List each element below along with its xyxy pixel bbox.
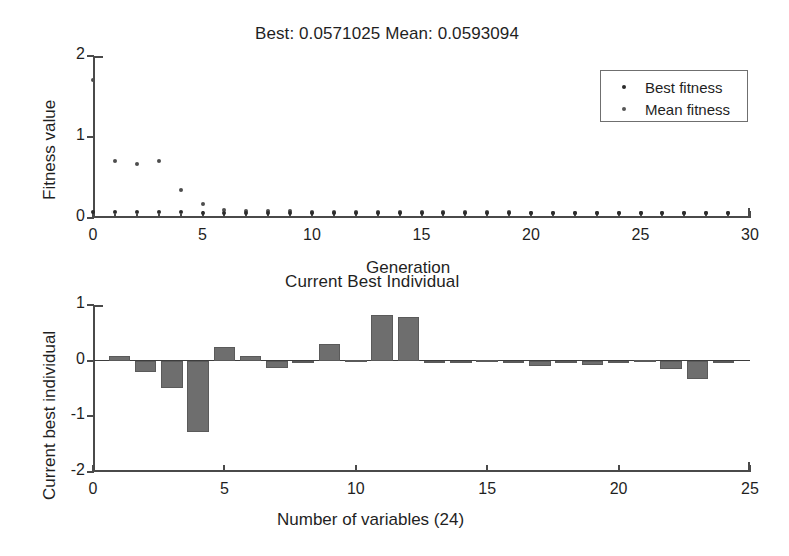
- top-y-tick: [87, 136, 94, 138]
- bar-item: [476, 360, 498, 362]
- top-y-tick-label: 2: [67, 45, 85, 63]
- bottom-x-tick-label: 5: [208, 480, 240, 498]
- bottom-x-tick-label: 20: [603, 480, 635, 498]
- best-fitness-point: [507, 211, 511, 215]
- best-fitness-point: [332, 211, 336, 215]
- mean-fitness-point: [201, 202, 205, 206]
- top-x-tick-label: 30: [734, 226, 766, 244]
- mean-fitness-point: [157, 159, 161, 163]
- bar-item: [503, 361, 525, 363]
- bar-item: [214, 347, 236, 361]
- best-fitness-point: [179, 210, 183, 214]
- bottom-x-tick: [223, 465, 225, 472]
- top-x-tick: [749, 211, 751, 218]
- best-fitness-point: [222, 211, 226, 215]
- bottom-x-tick-label: 25: [734, 480, 766, 498]
- legend-item-mean: Mean fitness: [607, 98, 737, 120]
- bar-item: [319, 344, 341, 361]
- bar-item: [555, 361, 577, 364]
- best-fitness-point: [595, 211, 599, 215]
- bar-item: [713, 361, 735, 363]
- bottom-y-tick-label: 0: [61, 350, 85, 368]
- top-x-tick-label: 5: [187, 226, 219, 244]
- bar-item: [345, 360, 367, 362]
- best-fitness-point: [244, 211, 248, 215]
- bottom-axis-cap-left: [93, 305, 103, 307]
- bottom-y-tick-label: -2: [61, 461, 85, 479]
- top-y-tick-label: 1: [67, 126, 85, 144]
- best-fitness-point: [682, 211, 686, 215]
- bottom-plot-axes: [93, 305, 750, 472]
- best-fitness-point: [551, 211, 555, 215]
- top-x-minor-tick: [114, 214, 116, 218]
- best-fitness-point: [157, 210, 161, 214]
- top-x-minor-tick: [158, 214, 160, 218]
- top-x-tick-label: 0: [77, 226, 109, 244]
- top-x-tick-label: 10: [296, 226, 328, 244]
- bottom-plot-title: Current Best Individual: [285, 272, 459, 292]
- bottom-y-tick: [87, 360, 94, 362]
- bar-item: [135, 361, 157, 372]
- bar-item: [266, 361, 288, 368]
- best-fitness-point: [420, 211, 424, 215]
- best-fitness-point: [573, 211, 577, 215]
- legend-label-mean: Mean fitness: [641, 101, 730, 118]
- bar-item: [687, 361, 709, 379]
- bottom-y-spine: [93, 305, 95, 472]
- bottom-y-tick-label: 1: [61, 294, 85, 312]
- bottom-y-tick-label: -1: [61, 405, 85, 423]
- best-fitness-point: [310, 211, 314, 215]
- best-fitness-point: [617, 211, 621, 215]
- best-fitness-point: [376, 211, 380, 215]
- legend-item-best: Best fitness: [607, 76, 737, 98]
- bar-item: [398, 317, 420, 360]
- best-fitness-point: [726, 211, 730, 215]
- bottom-x-tick: [618, 465, 620, 472]
- bar-item: [450, 361, 472, 363]
- bar-item: [660, 361, 682, 369]
- top-plot-title: Best: 0.0571025 Mean: 0.0593094: [255, 24, 519, 44]
- bottom-x-tick-label: 10: [340, 480, 372, 498]
- best-fitness-dot-icon: [607, 85, 641, 89]
- bar-item: [634, 360, 656, 362]
- best-fitness-point: [91, 210, 95, 214]
- best-fitness-point: [398, 211, 402, 215]
- best-fitness-point: [441, 211, 445, 215]
- bottom-y-tick: [87, 415, 94, 417]
- bar-item: [109, 356, 131, 360]
- best-fitness-point: [135, 210, 139, 214]
- bar-item: [161, 361, 183, 389]
- best-fitness-point: [288, 211, 292, 215]
- best-fitness-point: [201, 211, 205, 215]
- legend-label-best: Best fitness: [641, 79, 723, 96]
- best-fitness-point: [354, 211, 358, 215]
- bottom-x-spine: [93, 470, 750, 472]
- bottom-x-tick-label: 0: [77, 480, 109, 498]
- bar-item: [292, 361, 314, 363]
- top-x-tick-label: 25: [625, 226, 657, 244]
- best-fitness-point: [660, 211, 664, 215]
- mean-fitness-point: [113, 159, 117, 163]
- best-fitness-point: [266, 211, 270, 215]
- mean-fitness-point: [135, 162, 139, 166]
- top-x-minor-tick: [136, 214, 138, 218]
- top-plot-legend: Best fitness Mean fitness: [600, 70, 748, 122]
- bar-item: [371, 315, 393, 361]
- bottom-y-tick: [87, 304, 94, 306]
- best-fitness-point: [704, 211, 708, 215]
- bottom-x-tick: [486, 465, 488, 472]
- mean-fitness-point: [91, 78, 95, 82]
- best-fitness-point: [485, 211, 489, 215]
- top-x-tick-label: 15: [406, 226, 438, 244]
- figure-canvas: Best: 0.0571025 Mean: 0.0593094 Fitness …: [0, 0, 789, 556]
- top-plot-ylabel: Fitness value: [40, 100, 60, 200]
- bar-item: [424, 361, 446, 363]
- best-fitness-point: [463, 211, 467, 215]
- bottom-plot-xlabel: Number of variables (24): [277, 510, 464, 530]
- bar-item: [529, 361, 551, 367]
- best-fitness-point: [639, 211, 643, 215]
- bottom-x-tick: [92, 465, 94, 472]
- bottom-x-tick: [355, 465, 357, 472]
- bottom-plot-ylabel: Current best individual: [40, 331, 60, 500]
- top-x-tick-label: 20: [515, 226, 547, 244]
